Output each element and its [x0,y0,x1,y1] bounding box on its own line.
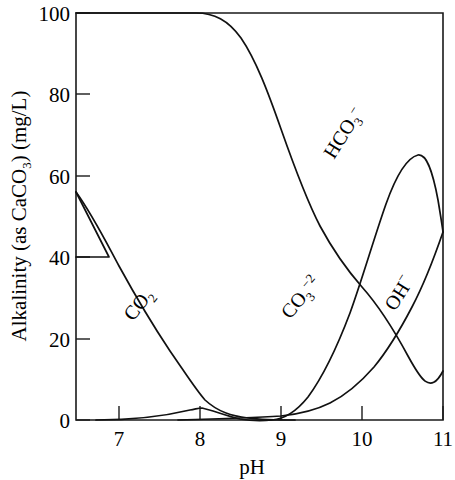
x-axis-tick-labels: 7 8 9 10 11 [114,427,453,451]
x-axis-title: pH [239,455,265,479]
svg-text:CO2: CO2 [119,284,161,327]
y-axis-title-after: ) (mg/L) [7,91,31,163]
y-ticklabel-40: 40 [49,246,70,270]
svg-text:CO3−2: CO3−2 [275,271,327,325]
y-axis-tick-labels: 100 80 60 40 20 0 [39,2,71,433]
y-axis-title-before: Alkalinity (as CaCO [7,169,31,342]
curve-oh [178,232,443,420]
alkalinity-ph-chart: 100 80 60 40 20 0 7 8 9 10 11 pH [0,0,455,480]
series-label-co2: CO2 [119,284,161,327]
x-ticklabel-7: 7 [114,427,125,451]
co3-label-sup: −2 [297,271,317,291]
y-axis-title: Alkalinity (as CaCO3) (mg/L) [7,91,34,342]
series-label-hco3: HCO3− [319,103,371,164]
curve-co2-chord [76,192,109,257]
y-ticklabel-80: 80 [49,83,70,107]
x-ticklabel-9: 9 [276,427,287,451]
x-ticklabel-8: 8 [195,427,206,451]
oh-label-base: OH [380,278,414,314]
curve-co2 [76,192,295,420]
y-ticklabel-100: 100 [39,2,71,26]
series-label-co3: CO3−2 [275,271,327,325]
hco3-label-sup: − [345,103,362,117]
x-ticklabel-11: 11 [433,427,453,451]
x-ticklabel-10: 10 [352,427,373,451]
chart-svg: 100 80 60 40 20 0 7 8 9 10 11 pH [0,0,455,480]
y-ticklabel-0: 0 [60,409,71,433]
y-ticklabel-20: 20 [49,328,70,352]
y-ticklabel-60: 60 [49,165,70,189]
svg-text:HCO3−: HCO3− [319,103,371,164]
svg-text:Alkalinity (as CaCO3) (mg/L): Alkalinity (as CaCO3) (mg/L) [7,91,34,342]
